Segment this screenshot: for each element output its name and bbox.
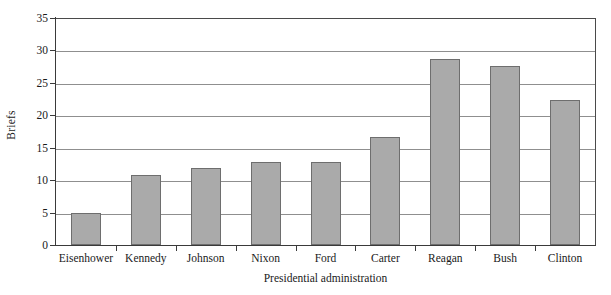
y-tick-label: 0 bbox=[42, 239, 48, 251]
y-axis-title: Briefs bbox=[0, 0, 22, 250]
x-tick-label: Bush bbox=[493, 252, 517, 264]
bar bbox=[131, 175, 161, 245]
y-tick-label: 20 bbox=[37, 109, 49, 121]
y-tick-label: 5 bbox=[42, 207, 48, 219]
x-axis-title-label: Presidential administration bbox=[264, 272, 388, 284]
y-tick-label: 35 bbox=[37, 12, 49, 24]
x-tick-mark bbox=[415, 246, 416, 251]
x-tick-label: Johnson bbox=[187, 252, 225, 264]
x-tick-mark bbox=[475, 246, 476, 251]
bar bbox=[370, 137, 400, 245]
bar bbox=[430, 59, 460, 245]
bar-chart: Briefs 05101520253035 EisenhowerKennedyJ… bbox=[0, 0, 611, 295]
bar bbox=[550, 100, 580, 245]
x-tick-mark bbox=[296, 246, 297, 251]
x-tick-label: Reagan bbox=[428, 252, 462, 264]
x-tick-label: Carter bbox=[371, 252, 400, 264]
bars-group bbox=[56, 18, 595, 245]
x-tick-mark bbox=[535, 246, 536, 251]
y-axis-tick-labels: 05101520253035 bbox=[22, 0, 52, 250]
x-tick-label: Eisenhower bbox=[59, 252, 113, 264]
y-tick-mark bbox=[50, 245, 56, 246]
bar bbox=[251, 162, 281, 245]
x-tick-mark bbox=[116, 246, 117, 251]
x-axis-tick-labels: EisenhowerKennedyJohnsonNixonFordCarterR… bbox=[56, 252, 595, 270]
bar bbox=[490, 66, 520, 245]
y-tick-label: 15 bbox=[37, 142, 49, 154]
x-tick-mark bbox=[176, 246, 177, 251]
y-tick-label: 10 bbox=[37, 174, 49, 186]
bar bbox=[191, 168, 221, 245]
x-tick-label: Ford bbox=[315, 252, 337, 264]
y-axis-title-label: Briefs bbox=[5, 110, 17, 139]
bar bbox=[71, 213, 101, 245]
bar bbox=[311, 162, 341, 245]
x-tick-label: Nixon bbox=[251, 252, 280, 264]
x-tick-label: Kennedy bbox=[125, 252, 167, 264]
x-tick-mark bbox=[355, 246, 356, 251]
y-tick-label: 30 bbox=[37, 44, 49, 56]
x-tick-mark bbox=[236, 246, 237, 251]
x-axis-spine bbox=[55, 245, 596, 246]
y-tick-label: 25 bbox=[37, 77, 49, 89]
x-axis-title: Presidential administration bbox=[56, 272, 595, 284]
x-tick-label: Clinton bbox=[548, 252, 583, 264]
